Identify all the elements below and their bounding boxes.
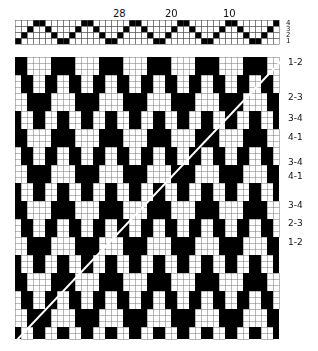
treadling-label: 4-1 (288, 132, 303, 142)
thread-number: 28 (113, 8, 126, 19)
shaft-label: 1 (286, 38, 290, 44)
treadling-label: 2-3 (288, 92, 303, 102)
treadling-label: 3-4 (288, 200, 303, 210)
drawdown-grid (15, 57, 285, 342)
thread-number: 20 (165, 8, 178, 19)
treadling-label: 3-4 (288, 113, 303, 123)
treadling-label: 3-4 (288, 157, 303, 167)
treadling-label: 2-3 (288, 218, 303, 228)
threading-draft (15, 20, 285, 46)
treadling-label: 1-2 (288, 237, 303, 247)
thread-number: 10 (223, 8, 236, 19)
treadling-label: 4-1 (288, 171, 303, 181)
treadling-label: 1-2 (288, 57, 303, 67)
